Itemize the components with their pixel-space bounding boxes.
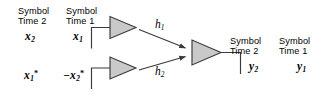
tx-symbol-x1-conjugate: x1*	[24, 69, 38, 83]
rx-header-symbol-time-1: Symbol Time 1	[279, 36, 310, 57]
rx-symbol-y1-base: y	[297, 60, 302, 72]
alamouti-stbc-diagram: Symbol Time 2 Symbol Time 1 x2 x1 x1* −x…	[0, 0, 326, 104]
tx-antenna-2-group	[92, 57, 137, 89]
tx-header-symbol-time-1-line1: Symbol	[66, 6, 97, 16]
tx-symbol-x1-base: x	[73, 30, 79, 42]
tx-symbol-x2-base: x	[25, 30, 31, 42]
tx-symbol-x2-sub: 2	[31, 35, 35, 44]
tx-header-symbol-time-1-line2: Time 1	[66, 16, 97, 26]
rx-symbol-y1-sub: 1	[303, 65, 307, 74]
tx-antenna-1-feedline	[92, 28, 111, 49]
tx-header-symbol-time-1: Symbol Time 1	[66, 6, 97, 27]
tx-symbol-neg-x2-conjugate-sup: *	[80, 69, 84, 78]
rx-symbol-y1: y1	[297, 60, 306, 74]
tx-symbol-x2: x2	[25, 30, 35, 44]
tx-symbol-x1-sub: 1	[79, 35, 83, 44]
tx-antenna-2-icon	[110, 57, 136, 79]
tx-symbol-x1-conjugate-sup: *	[34, 69, 38, 78]
tx-header-symbol-time-2: Symbol Time 2	[18, 6, 49, 27]
rx-header-symbol-time-1-line1: Symbol	[279, 36, 310, 46]
rx-symbol-y2-sub: 2	[255, 65, 259, 74]
channel-label-h2-sub: 2	[161, 70, 165, 79]
tx-antenna-2-feedline	[92, 68, 111, 89]
channel-label-h1: h1	[155, 18, 165, 32]
tx-symbol-x1: x1	[73, 30, 83, 44]
rx-header-symbol-time-2-line1: Symbol	[230, 36, 261, 46]
rx-header-symbol-time-1-line2: Time 1	[279, 46, 310, 56]
tx-symbol-neg-x2-conjugate: −x2*	[63, 69, 84, 83]
rx-header-symbol-time-2-line2: Time 2	[230, 46, 261, 56]
tx-symbol-x1-conjugate-base: x	[24, 69, 30, 81]
rx-header-symbol-time-2: Symbol Time 2	[230, 36, 261, 57]
tx-header-symbol-time-2-line1: Symbol	[18, 6, 49, 16]
channel-label-h1-sub: 1	[161, 23, 165, 32]
tx-antenna-1-icon	[110, 17, 136, 39]
rx-symbol-y2: y2	[249, 60, 258, 74]
channel-label-h2: h2	[155, 65, 165, 79]
tx-header-symbol-time-2-line2: Time 2	[18, 16, 49, 26]
rx-symbol-y2-base: y	[249, 60, 254, 72]
tx-antenna-1-group	[92, 17, 137, 49]
rx-antenna-icon	[192, 40, 221, 65]
